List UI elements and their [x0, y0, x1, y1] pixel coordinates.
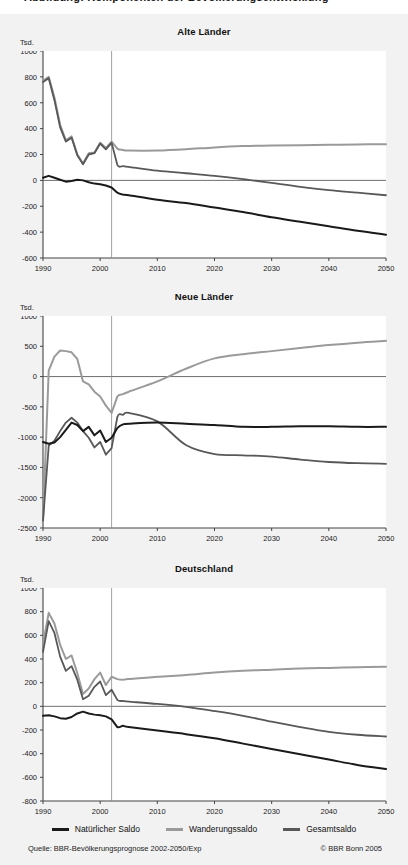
- svg-text:2000: 2000: [92, 807, 109, 816]
- svg-text:-1500: -1500: [18, 463, 37, 472]
- svg-text:-200: -200: [22, 202, 37, 211]
- svg-text:1990: 1990: [35, 807, 52, 816]
- svg-text:-1000: -1000: [18, 433, 37, 442]
- chart-panel-alte-laender: Alte Länder Tsd. 10008006004002000-200-4…: [0, 14, 408, 279]
- y-axis-unit-label-2: Tsd.: [20, 575, 34, 584]
- svg-text:0: 0: [33, 176, 37, 185]
- chart-title-deutschland: Deutschland: [0, 563, 408, 574]
- svg-text:0: 0: [33, 372, 37, 381]
- chart-title-alte-laender: Alte Länder: [0, 26, 408, 37]
- svg-text:800: 800: [24, 607, 37, 616]
- svg-text:2020: 2020: [206, 264, 223, 273]
- svg-text:2030: 2030: [263, 534, 280, 543]
- svg-text:2040: 2040: [320, 264, 337, 273]
- svg-text:2010: 2010: [149, 807, 166, 816]
- chart-legend: Natürlicher SaldoWanderungssaldoGesamtsa…: [0, 822, 408, 836]
- legend-item-wanderungssaldo: Wanderungssaldo: [166, 824, 257, 834]
- plot-area-alte-laender: 10008006004002000-200-400-60019902000201…: [43, 51, 386, 258]
- svg-text:2010: 2010: [149, 264, 166, 273]
- legend-item-nat-rlicher-saldo: Natürlicher Saldo: [52, 824, 140, 834]
- legend-swatch-icon: [52, 828, 69, 831]
- svg-text:-800: -800: [22, 797, 37, 806]
- legend-label: Wanderungssaldo: [189, 824, 257, 834]
- svg-text:200: 200: [24, 150, 37, 159]
- svg-text:0: 0: [33, 702, 37, 711]
- svg-text:2030: 2030: [263, 807, 280, 816]
- svg-text:-2500: -2500: [18, 524, 37, 533]
- svg-text:-500: -500: [22, 403, 37, 412]
- chart-panel-deutschland: Deutschland Tsd. 10008006004002000-200-4…: [0, 551, 408, 817]
- svg-text:-2000: -2000: [18, 494, 37, 503]
- svg-text:2000: 2000: [92, 264, 109, 273]
- svg-text:1000: 1000: [20, 51, 37, 56]
- svg-text:-600: -600: [22, 254, 37, 263]
- clipped-header-text: Abbildung: Komponenten der Bevölkerungse…: [24, 0, 329, 3]
- svg-text:2010: 2010: [149, 534, 166, 543]
- svg-text:2020: 2020: [206, 807, 223, 816]
- svg-text:2020: 2020: [206, 534, 223, 543]
- legend-swatch-icon: [283, 828, 300, 831]
- clipped-header-strip: Abbildung: Komponenten der Bevölkerungse…: [0, 0, 408, 14]
- svg-text:-600: -600: [22, 773, 37, 782]
- svg-text:200: 200: [24, 678, 37, 687]
- y-axis-unit-label-1: Tsd.: [20, 303, 34, 312]
- svg-text:1990: 1990: [35, 534, 52, 543]
- svg-text:2050: 2050: [378, 807, 395, 816]
- chart-panel-neue-laender: Neue Länder Tsd. 10005000-500-1000-1500-…: [0, 279, 408, 551]
- legend-label: Natürlicher Saldo: [75, 824, 140, 834]
- chart-title-neue-laender: Neue Länder: [0, 291, 408, 302]
- y-axis-unit-label-0: Tsd.: [20, 38, 34, 47]
- svg-text:-200: -200: [22, 726, 37, 735]
- svg-text:600: 600: [24, 99, 37, 108]
- svg-text:400: 400: [24, 124, 37, 133]
- svg-text:-400: -400: [22, 228, 37, 237]
- figure-root: Abbildung: Komponenten der Bevölkerungse…: [0, 0, 408, 865]
- svg-text:1000: 1000: [20, 316, 37, 321]
- svg-text:600: 600: [24, 631, 37, 640]
- svg-text:-400: -400: [22, 749, 37, 758]
- svg-text:2040: 2040: [320, 807, 337, 816]
- legend-label: Gesamtsaldo: [306, 824, 356, 834]
- svg-text:2030: 2030: [263, 264, 280, 273]
- source-note: Quelle: BBR-Bevölkerungsprognose 2002-20…: [28, 844, 201, 853]
- svg-text:2050: 2050: [378, 534, 395, 543]
- svg-text:2000: 2000: [92, 534, 109, 543]
- legend-item-gesamtsaldo: Gesamtsaldo: [283, 824, 356, 834]
- svg-text:400: 400: [24, 655, 37, 664]
- svg-text:500: 500: [24, 342, 37, 351]
- plot-area-deutschland: 10008006004002000-200-400-600-8001990200…: [43, 588, 386, 801]
- svg-text:800: 800: [24, 73, 37, 82]
- copyright-note: © BBR Bonn 2005: [321, 844, 382, 853]
- plot-area-neue-laender: 10005000-500-1000-1500-2000-250019902000…: [43, 316, 386, 528]
- svg-text:2050: 2050: [378, 264, 395, 273]
- svg-text:1990: 1990: [35, 264, 52, 273]
- legend-swatch-icon: [166, 828, 183, 831]
- footer-row: Quelle: BBR-Bevölkerungsprognose 2002-20…: [0, 844, 408, 853]
- svg-text:2040: 2040: [320, 534, 337, 543]
- svg-text:1000: 1000: [20, 588, 37, 593]
